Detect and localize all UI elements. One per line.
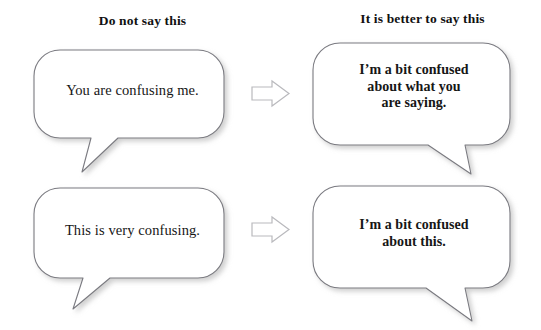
- speech-bubble-bad-1: You are confusing me.: [30, 46, 235, 178]
- right-arrow-icon: [250, 78, 292, 110]
- transition-arrow-2: [250, 214, 292, 246]
- speech-bubble-bad-2-shape: [30, 184, 235, 316]
- speech-bubble-good-1-text: I’m a bit confused about what you are sa…: [322, 62, 506, 112]
- column-header-better-to-say: It is better to say this: [330, 11, 515, 27]
- transition-arrow-1: [250, 78, 292, 110]
- column-header-do-not-say: Do not say this: [60, 13, 225, 29]
- speech-bubble-bad-2: This is very confusing.: [30, 184, 235, 316]
- right-arrow-icon: [250, 214, 292, 246]
- speech-bubble-bad-2-text: This is very confusing.: [40, 222, 225, 239]
- speech-bubble-good-1: I’m a bit confused about what you are sa…: [308, 38, 520, 180]
- speech-bubble-bad-1-text: You are confusing me.: [40, 82, 225, 99]
- speech-bubble-good-2-text: I’m a bit confused about this.: [322, 217, 506, 250]
- speech-bubble-bad-1-shape: [30, 46, 235, 178]
- diagram-canvas: Do not say this It is better to say this…: [0, 0, 541, 330]
- speech-bubble-good-2: I’m a bit confused about this.: [308, 181, 520, 327]
- speech-bubble-good-2-shape: [308, 181, 520, 327]
